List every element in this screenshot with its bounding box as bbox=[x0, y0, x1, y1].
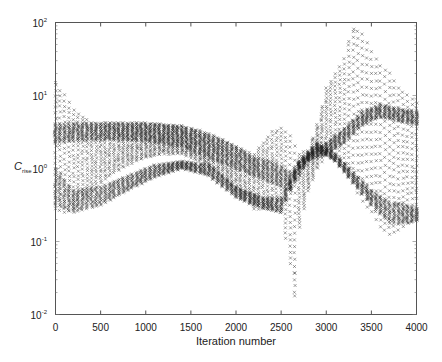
x-tick-label: 3000 bbox=[315, 322, 338, 333]
y-tick-label: 102 bbox=[33, 17, 48, 29]
svg-text:C: C bbox=[14, 160, 22, 172]
x-tick-label: 1000 bbox=[135, 322, 158, 333]
x-tick-label: 2500 bbox=[270, 322, 293, 333]
x-tick-label: 0 bbox=[53, 322, 59, 333]
x-tick-label: 500 bbox=[92, 322, 109, 333]
y-tick-label: 101 bbox=[33, 90, 48, 102]
x-tick-label: 2000 bbox=[225, 322, 248, 333]
svg-text:rise: rise bbox=[22, 168, 32, 174]
y-tick-label: 100 bbox=[33, 163, 48, 175]
y-axis-title: C rise bbox=[14, 160, 32, 174]
x-tick-label: 1500 bbox=[180, 322, 203, 333]
x-tick-label: 3500 bbox=[360, 322, 383, 333]
data-markers bbox=[53, 28, 419, 298]
marker-path bbox=[53, 28, 419, 298]
y-tick-label: 10-1 bbox=[31, 236, 48, 248]
x-tick-labels: 05001000150020002500300035004000 bbox=[53, 322, 428, 333]
y-tick-label: 10-2 bbox=[31, 309, 48, 321]
x-tick-label: 4000 bbox=[405, 322, 428, 333]
scatter-chart: 05001000150020002500300035004000 1021011… bbox=[0, 0, 442, 362]
x-axis-title: Iteration number bbox=[196, 335, 276, 347]
y-tick-labels: 10210110010-110-2 bbox=[31, 17, 48, 321]
